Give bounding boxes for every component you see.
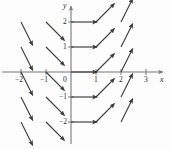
slope-arrow [21,97,33,120]
slope-arrow [96,53,115,72]
direction-field-figure: x y 0 −2−112321−1−2 [0,0,171,149]
x-tick-label: −1 [40,76,48,84]
slope-arrow [121,24,133,47]
slope-arrow [21,22,33,45]
y-tick-label: 1 [63,43,67,51]
origin-label: 0 [63,76,67,84]
slope-arrow [46,22,65,41]
axes-group [2,6,163,144]
slope-arrow [46,47,65,66]
y-axis-label: y [63,2,67,10]
slope-arrow [96,78,115,97]
slope-arrow [21,122,33,145]
slope-arrow [96,103,115,122]
x-tick-label: 2 [119,76,123,84]
slope-arrow [96,28,115,47]
slope-arrow [121,0,133,22]
x-axis-label: x [160,76,164,84]
slope-arrow [21,47,33,70]
slope-arrow [121,99,133,122]
x-tick-label: 1 [94,76,98,84]
slope-arrow [121,49,133,72]
y-tick-label: 2 [63,18,67,26]
slope-arrow [96,3,115,22]
x-tick-label: 3 [144,76,148,84]
y-tick-label: −2 [59,118,67,126]
y-tick-label: −1 [59,93,67,101]
slope-field-arrows [21,0,133,145]
x-tick-label: −2 [15,76,23,84]
slope-arrow [46,72,65,91]
